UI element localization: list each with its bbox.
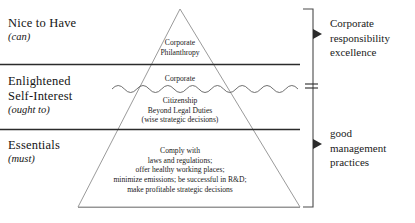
- level-label-nice-to-have: Nice to Have (can): [8, 16, 76, 43]
- tier-content-middle-above-wave: Corporate: [128, 74, 232, 84]
- tier-line: Corporate: [128, 74, 232, 84]
- bracket-label-line: management: [330, 141, 386, 156]
- tier-line: Comply with: [62, 146, 298, 156]
- tier-line: Citizenship: [108, 96, 252, 106]
- grouping-bracket: [303, 9, 313, 207]
- bracket-label-line: practices: [330, 155, 386, 170]
- tier-line: (wise strategic decisions): [108, 115, 252, 125]
- bracket-label-corporate-responsibility-excellence: Corporate responsibility excellence: [330, 16, 390, 60]
- tier-content-top: Corporate Philanthropy: [128, 38, 232, 57]
- tier-line: laws and regulations;: [62, 156, 298, 166]
- level-title-line2: Self-Interest: [8, 89, 72, 104]
- tier-line: offer healthy working places;: [62, 165, 298, 175]
- level-label-essentials: Essentials (must): [8, 138, 60, 165]
- level-title-line1: Enlightened: [8, 74, 72, 89]
- tier-line: minimize emissions; be successful in R&D…: [62, 175, 298, 185]
- level-title: Essentials: [8, 138, 60, 153]
- level-title: Nice to Have: [8, 16, 76, 31]
- level-qualifier: (must): [8, 153, 60, 165]
- diagram-canvas: Nice to Have (can) Enlightened Self-Inte…: [0, 0, 415, 223]
- level-qualifier: (ought to): [8, 104, 72, 116]
- tier-content-middle-below-wave: Citizenship Beyond Legal Duties (wise st…: [108, 96, 252, 125]
- bracket-label-line: good: [330, 126, 386, 141]
- level-qualifier: (can): [8, 31, 76, 43]
- wavy-separator: [112, 86, 298, 93]
- bracket-label-line: excellence: [330, 45, 390, 60]
- tier-content-bottom: Comply with laws and regulations; offer …: [62, 146, 298, 195]
- tier-line: Beyond Legal Duties: [108, 106, 252, 116]
- bracket-label-line: responsibility: [330, 31, 390, 46]
- bracket-label-line: Corporate: [330, 16, 390, 31]
- bracket-arrow-upper: [313, 29, 322, 39]
- tier-line: Corporate: [128, 38, 232, 48]
- tier-line: Philanthropy: [128, 48, 232, 58]
- level-label-enlightened-self-interest: Enlightened Self-Interest (ought to): [8, 74, 72, 116]
- bracket-arrow-lower: [313, 139, 322, 149]
- bracket-label-good-management-practices: good management practices: [330, 126, 386, 170]
- tier-line: make profitable strategic decisions: [62, 185, 298, 195]
